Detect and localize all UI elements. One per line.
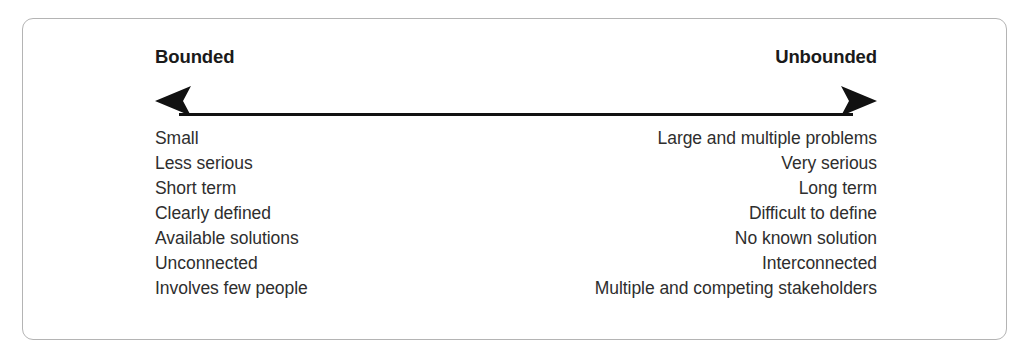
attribute-item: Long term — [799, 176, 877, 201]
arrow-shaft — [179, 113, 853, 116]
unbounded-attribute-column: Large and multiple problems Very serious… — [595, 126, 877, 301]
axis-label-unbounded: Unbounded — [775, 48, 877, 67]
attribute-columns: Small Less serious Short term Clearly de… — [155, 126, 877, 301]
attribute-item: Small — [155, 126, 199, 151]
figure-content: Bounded Unbounded Small Less serious Sho… — [155, 18, 877, 340]
attribute-item: Clearly defined — [155, 201, 271, 226]
figure-root: Bounded Unbounded Small Less serious Sho… — [0, 0, 1030, 357]
attribute-item: Unconnected — [155, 251, 258, 276]
arrowhead-right — [841, 86, 877, 116]
bounded-attribute-column: Small Less serious Short term Clearly de… — [155, 126, 308, 301]
attribute-item: No known solution — [735, 226, 877, 251]
double-headed-arrow-icon — [155, 82, 877, 116]
attribute-item: Large and multiple problems — [658, 126, 877, 151]
double-headed-arrow-svg — [155, 82, 877, 116]
attribute-item: Short term — [155, 176, 236, 201]
arrowhead-left — [155, 86, 191, 116]
attribute-item: Interconnected — [762, 251, 877, 276]
attribute-item: Difficult to define — [749, 201, 877, 226]
attribute-item: Less serious — [155, 151, 253, 176]
axis-label-bounded: Bounded — [155, 48, 234, 67]
axis-pole-labels: Bounded Unbounded — [155, 48, 877, 67]
attribute-item: Involves few people — [155, 276, 308, 301]
attribute-item: Multiple and competing stakeholders — [595, 276, 877, 301]
attribute-item: Available solutions — [155, 226, 299, 251]
attribute-item: Very serious — [781, 151, 877, 176]
